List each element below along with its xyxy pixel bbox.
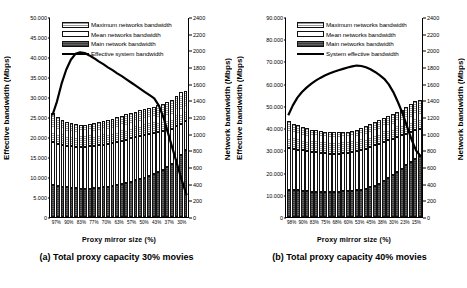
bar-segment-main — [395, 172, 399, 217]
bar-segment-mean — [337, 154, 341, 192]
bar-segment-main — [323, 192, 327, 217]
y-tick-mark-right — [189, 34, 192, 35]
legend-a: Maximum networks bandwidth Mean networks… — [62, 20, 184, 58]
y-tick-mark-right — [423, 184, 426, 185]
bar-segment-main — [409, 162, 413, 217]
bar-segment-main — [418, 156, 422, 217]
bar-segment-maximum — [395, 112, 399, 137]
bar-segment-mean — [147, 134, 151, 177]
bar-segment-maximum — [301, 127, 305, 150]
x-tick-label: 98% — [286, 220, 297, 230]
legend-label-effective-a: Effective system bandwidth — [91, 50, 163, 57]
bar-segment-mean — [323, 153, 327, 192]
bar-segment-main — [332, 192, 336, 217]
bar-segment-mean — [170, 129, 174, 164]
x-axis-title-b: Proxy mirror size (%) — [285, 236, 423, 243]
bar-segment-main — [92, 188, 96, 217]
x-tick-label: 83% — [309, 220, 320, 230]
bar-segment-maximum — [184, 91, 188, 121]
y-tick-mark-left — [284, 195, 287, 196]
x-tick-label: 97% — [50, 220, 63, 230]
bar-segment-main — [161, 170, 165, 218]
y-tick-mark-right — [189, 184, 192, 185]
x-tick-label: 83% — [75, 220, 88, 230]
bar-segment-maximum — [161, 104, 165, 131]
legend-item-main-a: Main network bandwidth — [62, 39, 184, 49]
y-tick-mark-right — [189, 134, 192, 135]
bar-segment-maximum — [115, 117, 119, 142]
legend-label-maximum-b: Maximum networks bandwidth — [326, 21, 407, 28]
bar-segment-main — [377, 184, 381, 217]
bar-segment-mean — [152, 133, 156, 174]
bar-segment-mean — [346, 153, 350, 191]
x-tick-label: 75% — [320, 220, 331, 230]
y-tick-mark-left — [48, 78, 51, 79]
bar-segment-main — [404, 165, 408, 217]
bar-segment-mean — [143, 135, 147, 178]
y-tick-mark-right — [423, 68, 426, 69]
bar-segment-maximum — [400, 110, 404, 136]
bar-segment-main — [355, 190, 359, 217]
bar-segment-mean — [418, 129, 422, 156]
x-tick-labels-a: 97%90%83%77%70%63%57%50%43%37%30% — [49, 220, 189, 230]
bar-segment-maximum — [120, 116, 124, 141]
bar-segment-main — [129, 182, 133, 217]
bar-segment-maximum — [305, 128, 309, 151]
caption-a: (a) Total proxy capacity 30% movies — [0, 252, 233, 262]
bar-segment-mean — [61, 145, 65, 187]
bar-segment-main — [138, 179, 142, 217]
bar-segment-mean — [79, 147, 83, 189]
bar-segment-main — [106, 187, 110, 217]
bar-segment-mean — [287, 148, 291, 190]
bar-segment-maximum — [165, 102, 169, 130]
bar-segment-mean — [106, 144, 110, 187]
bar-segment-mean — [391, 139, 395, 176]
legend-item-effective-a: Effective system bandwidth — [62, 49, 184, 59]
bar-segment-maximum — [102, 121, 106, 144]
bar-segment-main — [179, 155, 183, 218]
bar-segment-mean — [120, 141, 124, 184]
y-tick-mark-right — [189, 18, 192, 19]
bar-stack — [56, 18, 60, 217]
bar-segment-main — [115, 185, 119, 217]
bar-segment-mean — [292, 149, 296, 190]
bar-segment-main — [301, 191, 305, 217]
x-tick-label: 77% — [88, 220, 101, 230]
y-tick-mark-right — [423, 201, 426, 202]
bar-segment-maximum — [292, 124, 296, 149]
bar-segment-main — [337, 192, 341, 217]
bar-segment-maximum — [373, 122, 377, 145]
bar-segment-mean — [175, 126, 179, 159]
x-tick-labels-b: 98%90%83%75%68%60%53%45%38%30%23%15% — [285, 220, 423, 230]
x-tick-label: 68% — [331, 220, 342, 230]
y-axis-label-left-b: Effective bandwidth (Mbps) — [235, 56, 244, 160]
bar-segment-maximum — [319, 131, 323, 153]
legend-swatch-line-icon — [297, 53, 324, 55]
y-tick-mark-left — [48, 218, 51, 219]
bar-segment-mean — [355, 151, 359, 190]
bar-segment-mean — [134, 137, 138, 180]
y-tick-mark-right — [189, 201, 192, 202]
bar-segment-main — [175, 160, 179, 218]
bar-segment-main — [292, 190, 296, 217]
bar-stack — [51, 18, 55, 217]
bar-segment-main — [382, 181, 386, 217]
y-tick-mark-left — [284, 106, 287, 107]
bar-segment-main — [79, 189, 83, 217]
bar-segment-main — [391, 175, 395, 217]
bar-segment-maximum — [341, 132, 345, 153]
y-tick-mark-left — [48, 158, 51, 159]
legend-swatch-maximum-icon — [62, 22, 89, 28]
bar-segment-main — [120, 184, 124, 217]
bar-segment-mean — [51, 142, 55, 185]
bar-segment-mean — [395, 137, 399, 172]
y-tick-mark-right — [423, 18, 426, 19]
bar-segment-mean — [328, 154, 332, 192]
y-tick-mark-right — [189, 151, 192, 152]
bar-segment-maximum — [413, 101, 417, 130]
bar-segment-mean — [138, 136, 142, 179]
bar-segment-mean — [382, 142, 386, 181]
y-tick-mark-right — [423, 101, 426, 102]
legend-item-mean-b: Mean networks bandwidth — [297, 30, 419, 40]
bar-segment-mean — [165, 130, 169, 167]
